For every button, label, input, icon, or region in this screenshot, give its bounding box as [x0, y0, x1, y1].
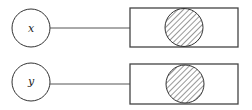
input-node-y-label: y	[27, 75, 35, 88]
hatched-circle-y	[166, 65, 204, 103]
row-y: y	[12, 63, 238, 104]
diagram-canvas: x y	[0, 0, 252, 110]
input-node-x-label: x	[28, 22, 35, 35]
row-x: x	[12, 8, 238, 47]
hatched-circle-x	[165, 9, 203, 47]
